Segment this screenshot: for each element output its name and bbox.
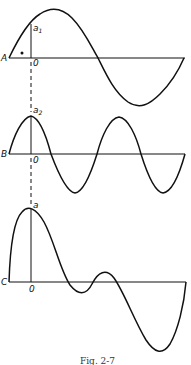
wave-c [9,208,186,351]
peak-label-a: a [33,200,39,210]
waveform-diagram: A a1 0 B a2 0 C a 0 Fig. 2-7 [0,0,191,365]
label-b: B [1,149,7,159]
panel-c: C a 0 [1,200,186,351]
label-c: C [1,277,8,287]
origin-label-a: 0 [33,58,39,68]
figure-caption: Fig. 2-7 [80,356,115,365]
panel-b: B a2 0 [1,105,185,193]
angle-marker-icon [21,52,24,55]
origin-label-c: 0 [29,284,35,294]
panel-a: A a1 0 [0,9,185,106]
peak-label-a1: a1 [33,23,42,34]
peak-label-a2: a2 [33,105,43,116]
label-a: A [0,53,7,63]
origin-label-b: 0 [33,155,39,165]
